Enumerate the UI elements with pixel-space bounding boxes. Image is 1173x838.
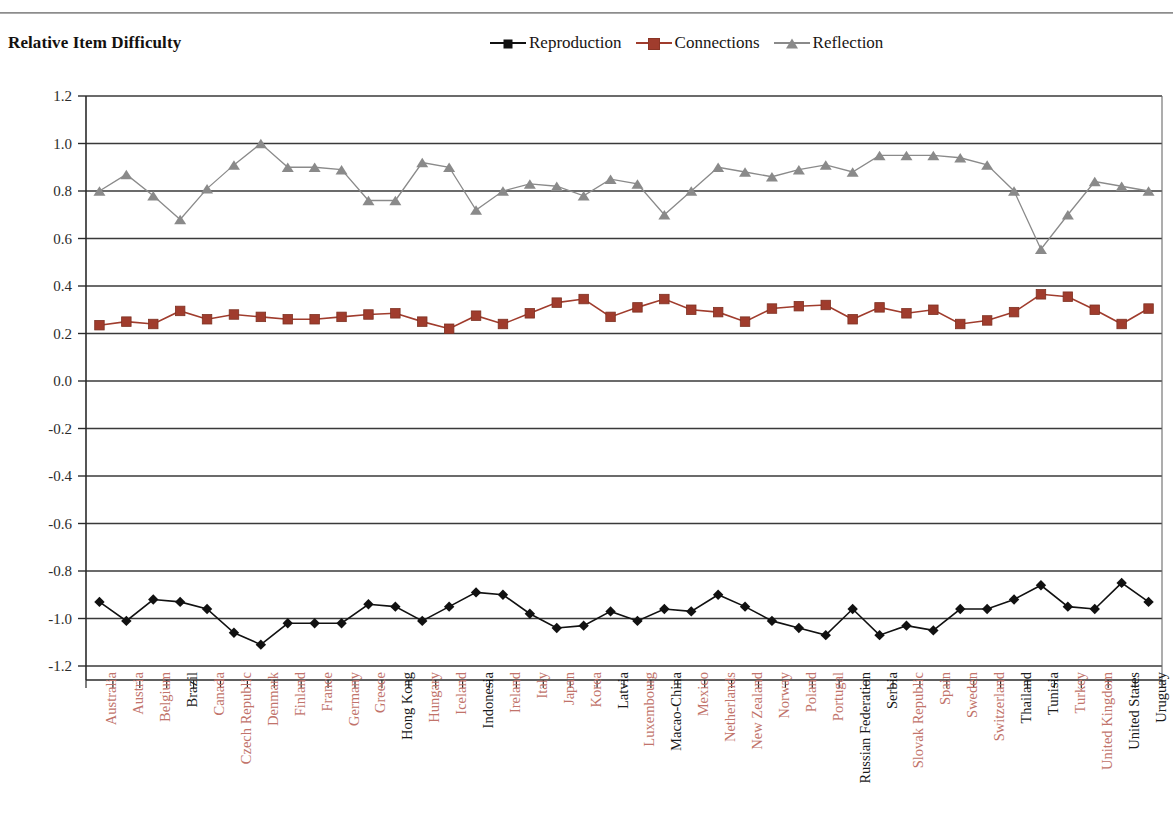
triangle-icon — [1062, 210, 1074, 220]
diamond-icon — [901, 620, 911, 630]
square-icon — [1009, 307, 1019, 317]
series-line-reproduction — [99, 583, 1148, 645]
y-tick-label: -1.0 — [48, 611, 72, 627]
x-axis-label: Spain — [938, 672, 953, 705]
y-tick-label: 0.2 — [53, 326, 72, 342]
x-axis-label: Austria — [131, 672, 146, 715]
data-point — [633, 303, 643, 313]
data-point — [605, 174, 617, 184]
legend-entry-reflection: Reflection — [774, 33, 884, 53]
data-point — [1089, 177, 1101, 187]
diamond-icon — [1143, 597, 1153, 607]
x-axis-label: Russian Federation — [858, 672, 873, 784]
data-point — [256, 312, 266, 322]
x-axis-label: Netherlands — [723, 672, 738, 742]
data-point — [740, 601, 750, 611]
data-point — [498, 319, 508, 329]
x-axis-label: Tunisia — [1046, 672, 1061, 715]
diamond-icon — [552, 623, 562, 633]
legend-line-reflection — [774, 42, 810, 44]
x-axis-label: Norway — [777, 672, 792, 719]
x-axis-label: Portugal — [831, 672, 846, 721]
data-point — [929, 305, 939, 315]
x-axis-label: Italy — [535, 672, 550, 699]
data-point — [1090, 305, 1100, 315]
legend-label: Reflection — [813, 33, 884, 53]
data-point — [390, 601, 400, 611]
data-point — [363, 599, 373, 609]
triangle-icon — [712, 163, 724, 173]
square-icon — [1144, 304, 1154, 314]
square-icon — [391, 309, 401, 319]
x-axis-label: New Zealand — [750, 672, 765, 750]
page-title: Relative Item Difficulty — [8, 33, 181, 53]
y-tick-label: -0.2 — [48, 421, 72, 437]
data-point — [444, 324, 454, 334]
y-tick-label: 0.4 — [53, 278, 72, 294]
data-point — [525, 309, 535, 319]
square-icon — [579, 294, 589, 304]
square-icon — [202, 315, 212, 325]
data-point — [579, 294, 589, 304]
data-point — [471, 587, 481, 597]
data-point — [875, 303, 885, 313]
legend-label: Reproduction — [529, 33, 622, 53]
y-tick-label: -0.6 — [48, 516, 72, 532]
triangle-icon — [981, 160, 993, 170]
square-icon — [1036, 290, 1046, 300]
data-point — [632, 616, 642, 626]
square-icon — [929, 305, 939, 315]
x-axis-label: Switzerland — [992, 672, 1007, 741]
diamond-icon — [767, 616, 777, 626]
data-point — [1116, 182, 1128, 192]
data-point — [1009, 307, 1019, 317]
legend-line-connections — [636, 42, 672, 44]
legend-line-reproduction — [490, 42, 526, 44]
data-point — [660, 294, 670, 304]
square-icon — [337, 312, 347, 322]
triangle-icon — [820, 160, 832, 170]
y-tick-label: 0.8 — [53, 183, 72, 199]
square-icon — [648, 38, 660, 50]
data-point — [1036, 290, 1046, 300]
data-point — [391, 309, 401, 319]
square-icon — [525, 309, 535, 319]
y-tick-label: 0.0 — [53, 373, 72, 389]
square-icon — [444, 324, 454, 334]
data-point — [1063, 292, 1073, 302]
data-point — [1144, 304, 1154, 314]
header-divider — [0, 12, 1173, 14]
x-axis-label: United States — [1127, 672, 1142, 750]
x-axis-label: Japan — [562, 672, 577, 705]
data-point — [149, 319, 159, 329]
data-point — [713, 590, 723, 600]
diamond-icon — [632, 616, 642, 626]
data-point — [1062, 210, 1074, 220]
square-icon — [875, 303, 885, 313]
y-tick-label: 0.6 — [53, 231, 72, 247]
square-icon — [848, 315, 858, 325]
cut-header-text — [85, 0, 785, 6]
data-point — [337, 312, 347, 322]
square-icon — [552, 298, 562, 308]
square-icon — [1090, 305, 1100, 315]
diamond-icon — [525, 609, 535, 619]
x-axis-label: Slovak Republic — [911, 672, 926, 768]
square-icon — [633, 303, 643, 313]
data-point — [578, 620, 588, 630]
square-icon — [1063, 292, 1073, 302]
series-line-reflection — [99, 144, 1148, 250]
square-icon — [95, 320, 105, 330]
data-point — [310, 315, 320, 325]
x-axis-label: Indonesia — [481, 672, 496, 728]
data-point — [175, 306, 185, 316]
data-point — [229, 310, 239, 320]
diamond-icon — [713, 590, 723, 600]
legend-entry-connections: Connections — [636, 33, 760, 53]
square-icon — [606, 312, 616, 322]
diamond-icon — [336, 618, 346, 628]
diamond-icon — [444, 601, 454, 611]
data-point — [418, 317, 428, 327]
x-axis-label: Mexico — [696, 672, 711, 716]
data-point — [444, 601, 454, 611]
